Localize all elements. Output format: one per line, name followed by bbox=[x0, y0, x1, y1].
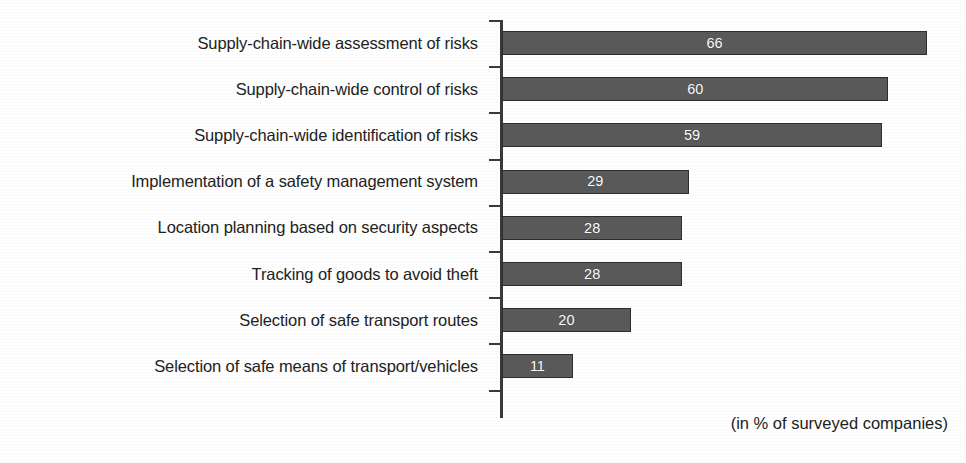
bar: 28 bbox=[502, 262, 682, 286]
plot-area: 6660592928282011 bbox=[0, 0, 966, 463]
bar-value-label: 29 bbox=[587, 174, 603, 189]
bar: 60 bbox=[502, 77, 888, 101]
bar: 28 bbox=[502, 216, 682, 240]
axis-tick bbox=[489, 390, 500, 392]
bar-value-label: 28 bbox=[584, 221, 600, 236]
chart-note: (in % of surveyed companies) bbox=[731, 414, 948, 433]
axis-tick bbox=[489, 20, 500, 22]
bar-value-label: 20 bbox=[558, 313, 574, 328]
axis-tick bbox=[489, 112, 500, 114]
axis-tick bbox=[489, 159, 500, 161]
bar-value-label: 11 bbox=[530, 359, 545, 374]
bar-value-label: 66 bbox=[706, 36, 722, 51]
axis-tick bbox=[489, 205, 500, 207]
bar-chart: Supply-chain-wide assessment of risksSup… bbox=[0, 0, 966, 463]
axis-tick bbox=[489, 297, 500, 299]
bar: 20 bbox=[502, 308, 631, 332]
bar: 66 bbox=[502, 31, 927, 55]
axis-tick bbox=[489, 66, 500, 68]
bar: 59 bbox=[502, 123, 882, 147]
axis-tick bbox=[489, 343, 500, 345]
bar-value-label: 59 bbox=[684, 128, 700, 143]
bar: 29 bbox=[502, 170, 689, 194]
bar-value-label: 28 bbox=[584, 267, 600, 282]
bar-value-label: 60 bbox=[687, 82, 703, 97]
bar: 11 bbox=[502, 354, 573, 378]
axis-tick bbox=[489, 251, 500, 253]
